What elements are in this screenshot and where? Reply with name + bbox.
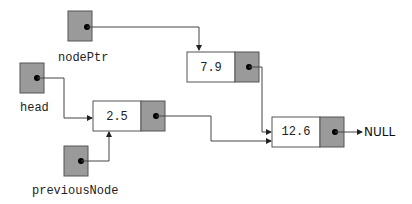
list-node-2-5: 2.5 [93,101,271,141]
node-next-arrow [156,116,271,141]
node-value: 7.9 [200,61,222,75]
nodePtr-arrow [87,27,199,50]
list-node-12-6: 12.6 NULL [272,117,395,147]
node-value: 12.6 [282,125,311,139]
previousNode-pointer: previousNode [32,132,118,198]
nodePtr-pointer: nodePtr [58,11,199,65]
head-label: head [20,101,49,115]
previousNode-label: previousNode [32,184,118,198]
node-value: 2.5 [106,110,128,124]
head-pointer: head [20,63,92,118]
null-label: NULL [364,125,395,139]
list-node-7-9: 7.9 [187,52,271,132]
nodePtr-label: nodePtr [58,51,108,65]
linked-list-diagram: nodePtr head 2.5 previousNode 7.9 12.6 [0,0,412,204]
